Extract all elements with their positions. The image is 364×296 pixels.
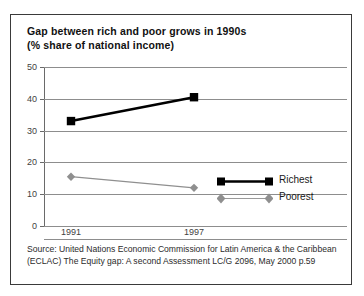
data-point-marker — [190, 93, 198, 101]
chart-title-block: Gap between rich and poor grows in 1990s… — [27, 25, 337, 52]
legend-swatch-poorest — [217, 190, 273, 207]
series-richest — [67, 93, 198, 125]
series-poorest — [67, 173, 198, 193]
source-note: Source: United Nations Economic Commissi… — [27, 243, 339, 267]
chart-figure-frame: Gap between rich and poor grows in 1990s… — [10, 14, 352, 285]
chart-subtitle: (% share of national income) — [27, 39, 337, 53]
series-line — [71, 97, 194, 121]
y-axis-label: 50 — [27, 62, 37, 72]
y-axis-label: 10 — [27, 189, 37, 199]
legend-item-richest: Richest — [217, 173, 347, 190]
legend-swatch-richest — [217, 173, 273, 190]
chart-legend: Richest Poorest — [217, 173, 347, 207]
chart-title: Gap between rich and poor grows in 1990s — [27, 25, 337, 39]
y-axis-label: 20 — [27, 157, 37, 167]
series-line — [71, 177, 194, 188]
legend-item-poorest: Poorest — [217, 190, 347, 207]
x-axis-line — [44, 239, 347, 240]
data-point-marker — [190, 184, 198, 192]
y-axis-label: 30 — [27, 126, 37, 136]
x-axis-label: 1997 — [184, 227, 204, 237]
x-axis-label: 1991 — [61, 227, 81, 237]
data-point-marker — [67, 173, 75, 181]
legend-label-richest: Richest — [279, 174, 312, 185]
y-axis-label: 40 — [27, 94, 37, 104]
y-axis-tick — [40, 226, 44, 227]
data-point-marker — [67, 117, 75, 125]
legend-label-poorest: Poorest — [279, 191, 313, 202]
source-line-1: Source: United Nations Economic Commissi… — [27, 243, 339, 255]
y-axis-label: 0 — [32, 221, 37, 231]
source-line-2: (ECLAC) The Equity gap: A second Assessm… — [27, 255, 339, 267]
